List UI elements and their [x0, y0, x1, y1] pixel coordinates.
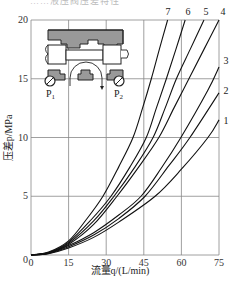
curve-label-7: 7 — [166, 6, 171, 17]
curve-1 — [31, 120, 219, 255]
pressure-flow-chart: P1 P2 0153045607505101520 1234567 流量q/(L… — [0, 0, 233, 286]
label-p1: P1 — [46, 88, 56, 101]
valve-inset-diagram: P1 P2 — [45, 30, 129, 101]
y-tick-label: 0 — [23, 254, 28, 265]
y-axis-label: 压差p/MPa — [2, 114, 14, 161]
curve-label-6: 6 — [186, 6, 191, 17]
y-tick-label: 10 — [18, 132, 28, 143]
curve-label-3: 3 — [224, 55, 229, 66]
x-axis-label: 流量q/(L/min) — [91, 264, 150, 277]
spool-left — [48, 45, 66, 64]
curve-label-4: 4 — [221, 6, 226, 17]
y-tick-label: 15 — [18, 73, 28, 84]
curve-label-2: 2 — [224, 85, 229, 96]
y-tick-label: 5 — [23, 190, 28, 201]
curve-label-5: 5 — [204, 6, 209, 17]
x-tick-label: 60 — [176, 257, 186, 268]
y-tick-label: 20 — [18, 14, 28, 25]
curve-label-1: 1 — [224, 115, 229, 126]
x-tick-label: 75 — [214, 257, 224, 268]
spool-right — [103, 45, 121, 64]
curve-2 — [31, 93, 219, 255]
x-tick-label: 0 — [29, 257, 34, 268]
x-tick-label: 15 — [64, 257, 74, 268]
curve-3 — [31, 67, 219, 255]
label-p2: P2 — [114, 88, 124, 101]
